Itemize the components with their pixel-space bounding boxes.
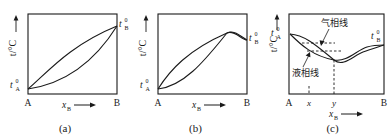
tA0-sub: A xyxy=(277,34,282,40)
plot-frame xyxy=(158,14,247,94)
x-axis-label-group: x B xyxy=(328,109,363,121)
tA0-sup: 0 xyxy=(16,78,19,84)
tA0-label: t A 0 xyxy=(140,78,151,92)
corner-label-B: B xyxy=(244,98,250,108)
liquid-line-label: 液相线 xyxy=(292,67,319,78)
tB0-label: t B 0 xyxy=(249,31,259,45)
corner-label-A: A xyxy=(25,98,32,108)
panel-a-zeotropic: t/°C t A 0 t B 0 A B x B xyxy=(0,0,130,136)
y-axis-label: t/°C xyxy=(137,40,148,57)
tA0-sub: A xyxy=(146,86,151,92)
liquid-leader-line xyxy=(303,55,309,67)
figure-root: t/°C t A 0 t B 0 A B x B xyxy=(0,0,392,136)
plot-frame xyxy=(28,14,117,94)
svg-text:t: t xyxy=(140,80,143,90)
panel-c-svg: t/°C 气相线 液相线 xyxy=(261,0,392,136)
x-axis-arrow-icon xyxy=(220,102,226,107)
panel-a-svg: t/°C t A 0 t B 0 A B x B xyxy=(0,0,130,136)
vapor-leader-line xyxy=(322,29,329,43)
x-axis-label-group: x B xyxy=(191,100,226,112)
panel-b-caption: (b) xyxy=(130,122,261,134)
tB0-sup: 0 xyxy=(125,17,128,23)
x-axis-arrow-icon xyxy=(357,111,363,116)
y-axis-arrow-icon xyxy=(275,14,280,20)
panel-c-caption: (c) xyxy=(267,122,392,134)
x-axis-label-group: x B xyxy=(61,100,96,112)
panel-a-caption: (a) xyxy=(0,122,130,134)
tA0-sub: A xyxy=(16,86,21,92)
svg-text:t: t xyxy=(271,28,274,38)
panel-c-minimum-azeotrope: t/°C 气相线 液相线 xyxy=(261,0,392,136)
svg-text:t: t xyxy=(10,80,13,90)
x-tick-label-x: x xyxy=(306,98,311,108)
x-axis-label-sub: B xyxy=(334,115,338,121)
corner-label-B: B xyxy=(381,98,387,108)
liquid-line-annotation: 液相线 xyxy=(292,52,319,78)
svg-text:t: t xyxy=(119,19,122,29)
vapor-leader-arrow-icon xyxy=(320,40,325,46)
liquid-line-curve xyxy=(28,26,117,89)
vapor-line-curve xyxy=(28,26,117,89)
tA0-label: t A 0 xyxy=(10,78,21,92)
tB0-label: t B 0 xyxy=(119,17,129,31)
tA0-label: t A 0 xyxy=(271,26,282,40)
y-axis-label: t/°C xyxy=(7,40,18,57)
tB0-label: t B 0 xyxy=(371,29,381,43)
x-axis-label-sub: B xyxy=(67,106,71,112)
vapor-line-curve xyxy=(158,32,247,89)
x-axis-arrow-icon xyxy=(90,102,96,107)
liquid-line-curve xyxy=(158,32,247,89)
tB0-sub: B xyxy=(255,39,259,45)
tB0-sub: B xyxy=(125,25,129,31)
vapor-line-label: 气相线 xyxy=(321,17,348,28)
tB0-sup: 0 xyxy=(255,31,258,37)
corner-label-A: A xyxy=(286,98,293,108)
panel-b-maximum-azeotrope: t/°C t A 0 t B 0 A B x B xyxy=(130,0,261,136)
vapor-line-annotation: 气相线 xyxy=(320,17,348,46)
tB0-sup: 0 xyxy=(377,29,380,35)
y-axis-arrow-icon xyxy=(14,15,19,21)
svg-text:t: t xyxy=(249,33,252,43)
tA0-sup: 0 xyxy=(146,78,149,84)
x-axis-label-sub: B xyxy=(197,106,201,112)
corner-label-B: B xyxy=(114,98,120,108)
vapor-line-curve xyxy=(290,34,384,62)
x-tick-label-y: y xyxy=(331,98,336,108)
svg-text:t: t xyxy=(371,31,374,41)
tB0-sub: B xyxy=(377,37,381,43)
y-axis-arrow-icon xyxy=(144,15,149,21)
tA0-sup: 0 xyxy=(277,26,280,32)
panel-b-svg: t/°C t A 0 t B 0 A B x B xyxy=(130,0,261,136)
corner-label-A: A xyxy=(155,98,162,108)
